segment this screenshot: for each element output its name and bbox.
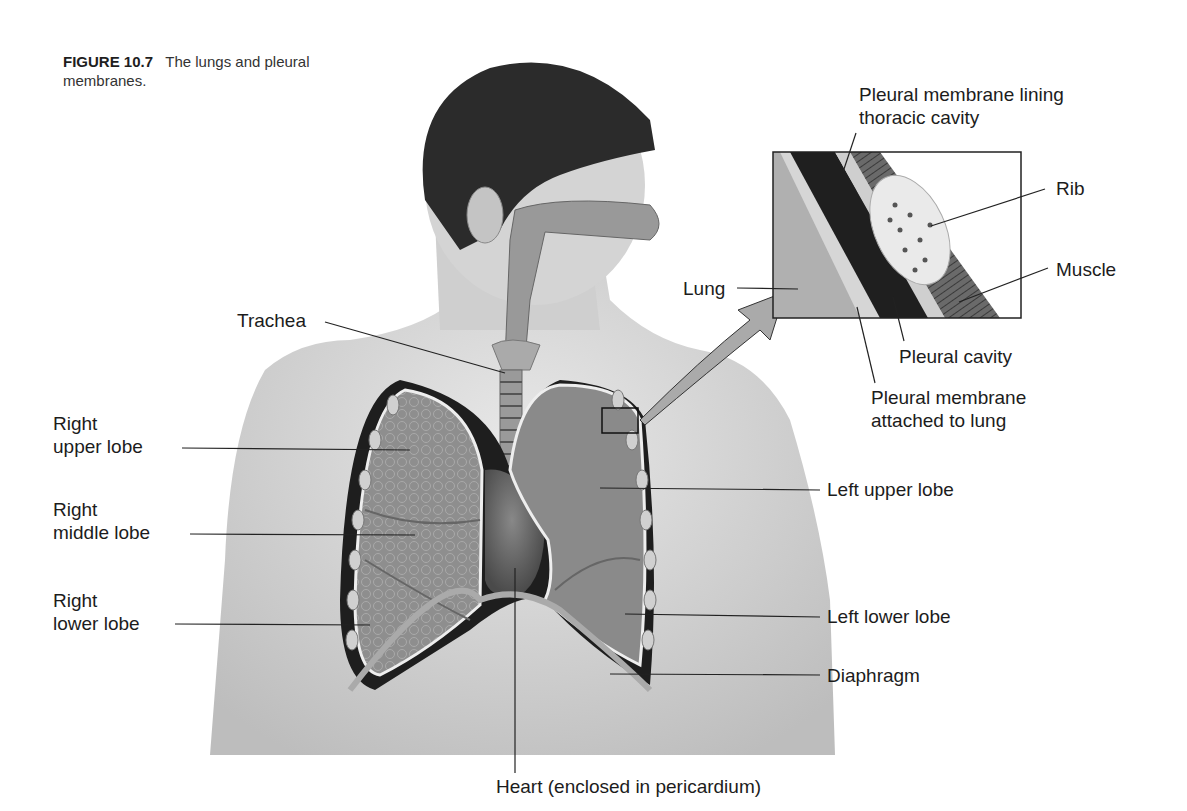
ear <box>467 187 503 243</box>
label-pleural-attached: Pleural membrane attached to lung <box>871 386 1026 432</box>
label-trachea: Trachea <box>237 309 306 332</box>
label-pleural-cavity: Pleural cavity <box>899 345 1012 368</box>
label-heart: Heart (enclosed in pericardium) <box>496 775 761 798</box>
label-lung: Lung <box>683 277 725 300</box>
label-right-lower-lobe: Right lower lobe <box>53 589 140 635</box>
label-diaphragm: Diaphragm <box>827 664 920 687</box>
label-left-upper-lobe: Left upper lobe <box>827 478 954 501</box>
label-muscle: Muscle <box>1056 258 1116 281</box>
label-right-middle-lobe: Right middle lobe <box>53 498 150 544</box>
label-rib: Rib <box>1056 177 1085 200</box>
label-right-upper-lobe: Right upper lobe <box>53 412 143 458</box>
label-pleural-lining: Pleural membrane lining thoracic cavity <box>859 83 1064 129</box>
label-left-lower-lobe: Left lower lobe <box>827 605 951 628</box>
